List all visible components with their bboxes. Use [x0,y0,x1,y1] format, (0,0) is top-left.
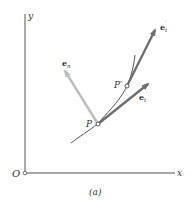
normal-vector-en [65,71,98,124]
svg-text:t: t [165,27,168,33]
svg-text:′: ′ [165,19,167,26]
diagram-canvas: O y x P P′ e n e t e t ′ (a) [0,0,194,205]
origin-point [23,171,27,175]
point-p-prime-label: P′ [113,80,122,90]
tangent-vector-et [98,84,148,124]
et-label: e t [139,92,147,103]
tangent-vector-et-prime [127,30,155,86]
svg-text:n: n [67,63,71,69]
y-axis-label: y [27,11,34,21]
x-axis-label: x [177,168,182,178]
figure-caption: (a) [89,187,102,197]
en-label: e n [62,58,71,69]
origin-label: O [12,168,20,179]
point-p [96,122,100,126]
point-p-label: P [85,119,93,129]
point-p-prime [125,84,129,88]
tangent-normal-diagram: O y x P P′ e n e t e t ′ (a) [0,0,194,205]
et-prime-label: e t ′ [160,19,168,33]
path-curve [71,55,135,143]
svg-text:t: t [144,97,147,103]
